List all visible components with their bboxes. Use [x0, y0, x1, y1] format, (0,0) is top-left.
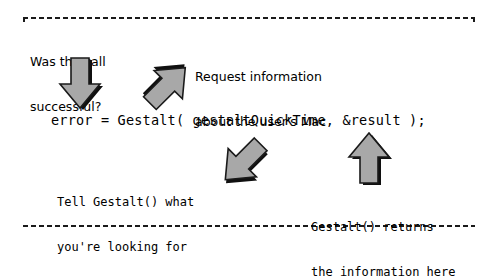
arrow-up-to-result [345, 131, 393, 189]
arrow-down-to-error [56, 54, 104, 112]
code-statement: error = Gestalt( gestaltQuickTime, &resu… [51, 112, 426, 128]
annotation-line-2: the information here [311, 265, 456, 280]
annotation-line-1: Gestalt() returns [311, 220, 456, 235]
annotation-gestalt-returns: Gestalt() returns the information here [311, 190, 456, 280]
border-edge-left [23, 17, 25, 227]
annotation-line-2: you're looking for [57, 240, 194, 255]
border-edge-right [473, 17, 475, 227]
arrow-upright-to-selector [209, 132, 279, 194]
border-edge-top [23, 17, 475, 19]
annotation-tell-gestalt: Tell Gestalt() what you're looking for [57, 165, 194, 280]
annotation-line-1: Tell Gestalt() what [57, 195, 194, 210]
annotation-line-1: Request information [195, 69, 326, 84]
arrow-downleft-to-gestalt [136, 55, 202, 117]
